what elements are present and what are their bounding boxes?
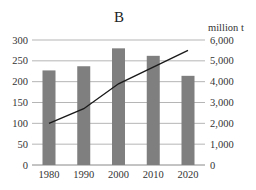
bar-series (43, 48, 195, 165)
chart: B million t 050100150200250300 01,0002,0… (0, 0, 256, 190)
left-tick-label: 0 (23, 160, 28, 171)
right-y-axis-ticks: 01,0002,0003,0004,0005,0006,000 (210, 35, 234, 171)
right-axis-unit-label: million t (208, 22, 244, 33)
left-tick-label: 50 (18, 139, 29, 150)
bar (182, 76, 195, 165)
left-tick-label: 100 (12, 118, 28, 129)
x-tick-label: 1990 (73, 169, 94, 180)
right-tick-label: 6,000 (210, 35, 234, 46)
x-axis-labels: 19801990200020102020 (39, 169, 199, 180)
unit-text: million t (208, 22, 244, 33)
bar (77, 66, 90, 165)
left-tick-label: 150 (12, 97, 28, 108)
bar (147, 56, 160, 165)
right-tick-label: 3,000 (210, 97, 234, 108)
x-tick-label: 1980 (39, 169, 60, 180)
x-tick-label: 2020 (178, 169, 199, 180)
right-tick-label: 0 (210, 160, 215, 171)
right-tick-label: 2,000 (210, 118, 234, 129)
right-tick-label: 5,000 (210, 55, 234, 66)
left-tick-label: 200 (12, 76, 28, 87)
left-y-axis-ticks: 050100150200250300 (12, 35, 28, 171)
chart-title: B (114, 9, 124, 25)
right-tick-label: 4,000 (210, 76, 234, 87)
left-tick-label: 250 (12, 55, 28, 66)
left-tick-label: 300 (12, 35, 28, 46)
x-tick-label: 2000 (108, 169, 129, 180)
title-text: B (114, 9, 124, 25)
right-tick-label: 1,000 (210, 139, 234, 150)
bar (43, 70, 56, 165)
x-tick-label: 2010 (143, 169, 164, 180)
bar (112, 48, 125, 165)
